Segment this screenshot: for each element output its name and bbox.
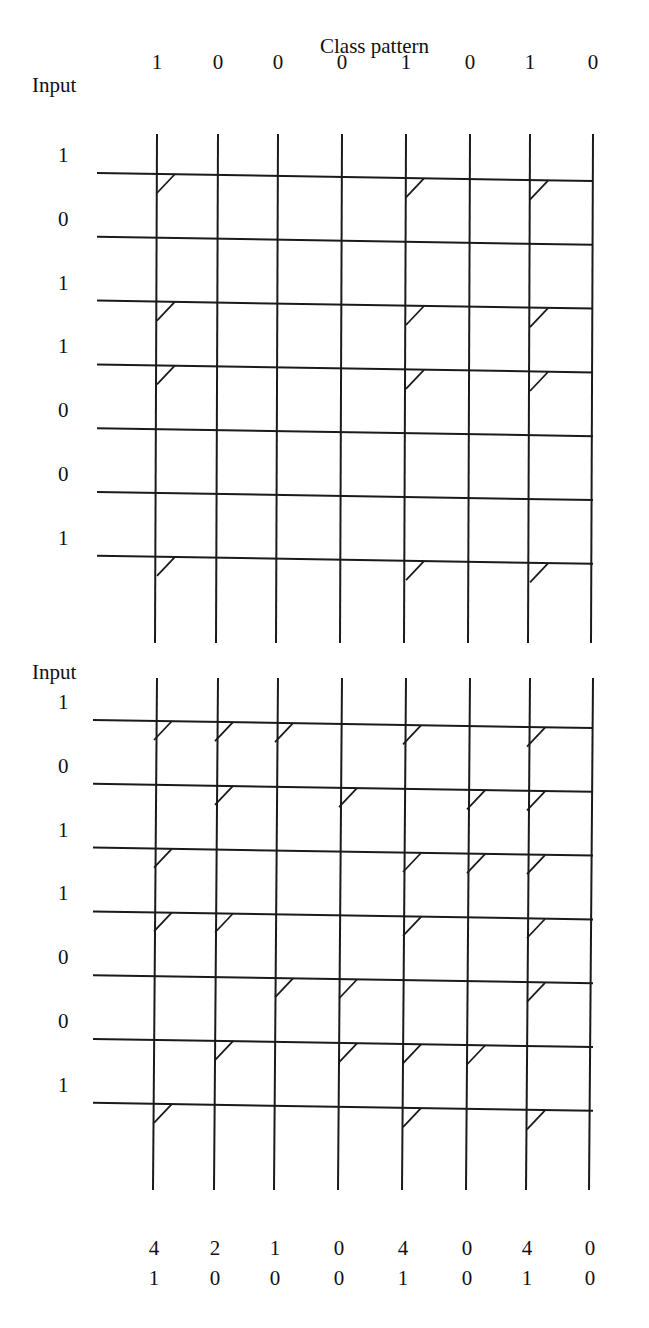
connection-mark [530,372,548,391]
connection-mark [403,1108,421,1127]
connection-mark [530,563,548,582]
connection-mark [154,912,172,931]
connection-mark [275,978,293,997]
connection-mark [527,919,545,938]
connection-mark [157,302,175,321]
connection-mark [527,1110,545,1129]
connection-mark [527,855,545,874]
connection-mark [403,1044,421,1063]
connection-mark [339,1043,357,1062]
column-line [591,134,593,643]
connection-mark [339,980,357,999]
connection-mark [406,561,424,580]
column-line [274,678,278,1190]
connection-mark [215,914,233,933]
column-line [528,134,530,643]
connection-mark [530,308,548,327]
connection-mark [154,849,172,868]
column-line [338,678,342,1190]
connection-mark [406,306,424,325]
row-line [97,237,593,245]
connection-mark [215,1041,233,1060]
column-line [589,678,593,1190]
connection-mark [527,983,545,1002]
connection-mark [530,181,548,200]
column-line [340,134,342,643]
connection-mark [406,178,424,197]
connection-mark [403,853,421,872]
column-line [276,134,278,643]
row-line [97,492,593,500]
column-line [153,678,157,1190]
column-line [526,678,530,1190]
column-line [216,134,218,643]
associative-memory-diagram [0,0,649,1328]
connection-mark [467,854,485,873]
connection-mark [154,1104,172,1123]
row-line [93,784,593,792]
column-line [214,678,218,1190]
connection-mark [157,365,175,384]
column-line [155,134,157,643]
connection-mark [403,917,421,936]
column-line [468,134,470,643]
connection-mark [157,557,175,576]
connection-mark [406,370,424,389]
row-line [97,428,593,436]
connection-mark [157,174,175,193]
row-line [93,975,593,983]
column-line [466,678,470,1190]
row-line [93,1039,593,1047]
connection-mark [467,1046,485,1065]
